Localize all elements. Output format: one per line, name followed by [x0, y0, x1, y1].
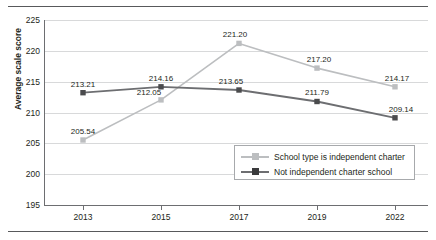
gridline-205: [44, 143, 428, 144]
y-tick-label: 195: [6, 201, 40, 210]
legend-label: Not independent charter school: [274, 167, 392, 177]
gridline-210: [44, 113, 428, 114]
chart-legend: School type is independent charter Not i…: [234, 145, 415, 180]
legend-swatch-icon: [241, 166, 269, 178]
x-tick-label: 2017: [219, 212, 259, 222]
y-axis-title: Average scale score: [13, 9, 23, 129]
data-value-label: 217.20: [297, 55, 341, 64]
legend-item-not-independent-charter[interactable]: Not independent charter school: [235, 164, 416, 179]
top-divider-rule: [8, 6, 428, 7]
y-tick-label: 220: [6, 47, 40, 56]
data-value-label: 221.20: [213, 30, 257, 39]
x-tick-label: 2013: [63, 212, 103, 222]
x-tick-mark: [317, 205, 318, 210]
y-tick-label: 200: [6, 170, 40, 179]
data-value-label: 212.05: [127, 88, 171, 97]
y-tick-label: 225: [6, 16, 40, 25]
bottom-divider-rule: [8, 231, 428, 232]
x-tick-mark: [161, 205, 162, 210]
data-value-label: 211.79: [295, 88, 339, 97]
gridline-225: [44, 20, 428, 21]
x-tick-mark: [83, 205, 84, 210]
gridline-220: [44, 51, 428, 52]
x-axis-line: [44, 205, 428, 206]
data-value-label: 213.65: [209, 77, 253, 86]
y-tick-label: 215: [6, 78, 40, 87]
y-tick-label: 205: [6, 139, 40, 148]
x-tick-mark: [395, 205, 396, 210]
x-tick-mark: [239, 205, 240, 210]
data-value-label: 214.17: [375, 74, 419, 83]
data-value-label: 213.21: [61, 80, 105, 89]
legend-item-independent-charter[interactable]: School type is independent charter: [235, 149, 416, 164]
y-tick-label: 210: [6, 109, 40, 118]
data-value-label: 205.54: [61, 127, 105, 136]
y-axis-line: [44, 20, 45, 206]
legend-swatch-icon: [241, 151, 269, 163]
x-tick-label: 2015: [141, 212, 181, 222]
x-tick-label: 2019: [297, 212, 337, 222]
data-value-label: 214.16: [139, 74, 183, 83]
data-value-label: 209.14: [379, 105, 423, 114]
legend-label: School type is independent charter: [274, 152, 405, 162]
chart-figure: 225 220 215 210 205 200 195 Average scal…: [0, 0, 436, 240]
x-tick-label: 2022: [375, 212, 415, 222]
